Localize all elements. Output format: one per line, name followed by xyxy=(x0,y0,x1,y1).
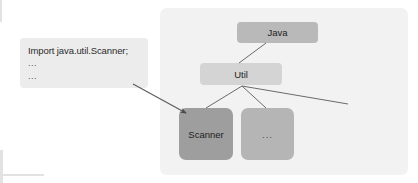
screenshot-root: Import java.util.Scanner; ... ... Java U… xyxy=(0,0,418,183)
node-ellipsis: ... xyxy=(241,108,294,160)
node-util: Util xyxy=(200,63,282,85)
node-java: Java xyxy=(237,22,318,43)
code-snippet-box: Import java.util.Scanner; ... ... xyxy=(20,38,148,88)
page-edge-artifact-bottom xyxy=(0,150,3,183)
node-java-label: Java xyxy=(267,27,287,38)
node-ellipsis-label: ... xyxy=(262,129,273,140)
page-edge-artifact-bottom-strip xyxy=(0,174,44,176)
code-line-ellipsis-1: ... xyxy=(28,57,140,70)
code-line-ellipsis-2: ... xyxy=(28,70,140,83)
node-util-label: Util xyxy=(234,69,248,80)
node-scanner: Scanner xyxy=(179,108,233,160)
page-edge-artifact-top xyxy=(0,0,2,22)
node-scanner-label: Scanner xyxy=(188,129,223,140)
code-line-import: Import java.util.Scanner; xyxy=(28,44,140,57)
